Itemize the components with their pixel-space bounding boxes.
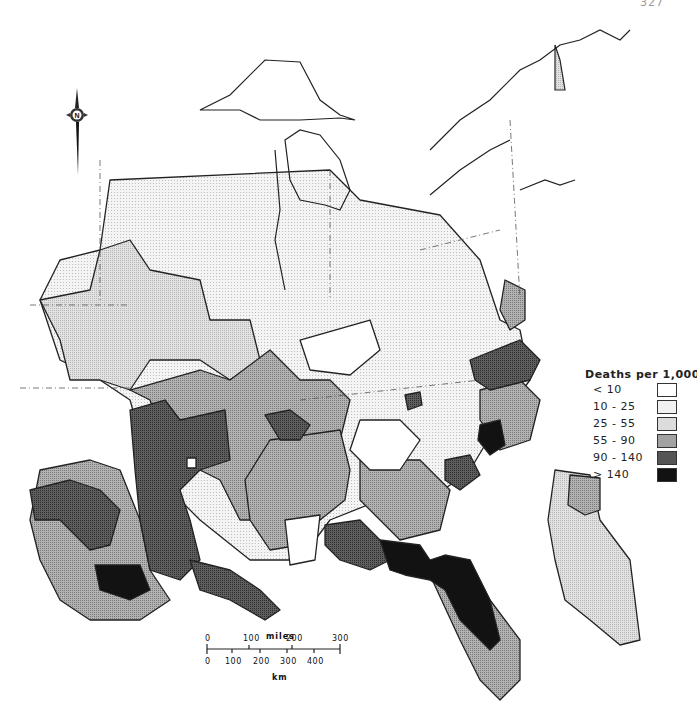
north-arrow-icon: N <box>66 88 88 175</box>
miles-tick: 0 <box>205 634 211 643</box>
km-tick: 400 <box>307 657 324 666</box>
km-tick: 200 <box>253 657 270 666</box>
miles-tick: 200 <box>286 634 303 643</box>
km-tick: 100 <box>225 657 242 666</box>
legend-item: < 10 <box>585 381 695 398</box>
legend-item: 55 - 90 <box>585 432 695 449</box>
km-tick: 0 <box>205 657 211 666</box>
legend-swatch-55-90 <box>657 434 677 448</box>
scale-legend: miles 0 100 200 300 0 100 200 300 400 km <box>200 632 350 692</box>
legend-swatch-gt140 <box>657 468 677 482</box>
legend-label: 25 - 55 <box>585 417 657 430</box>
legend-swatch-90-140 <box>657 451 677 465</box>
region-fills <box>30 170 640 700</box>
miles-tick: 100 <box>243 634 260 643</box>
miles-tick: 300 <box>332 634 349 643</box>
legend-item: 25 - 55 <box>585 415 695 432</box>
legend-label: 90 - 140 <box>585 451 657 464</box>
legend-item: > 140 <box>585 466 695 483</box>
legend-item: 10 - 25 <box>585 398 695 415</box>
scale-km-label: km <box>272 673 288 682</box>
legend: Deaths per 1,000 < 10 10 - 25 25 - 55 55… <box>585 368 695 483</box>
legend-title: Deaths per 1,000 <box>585 368 695 381</box>
legend-swatch-10-25 <box>657 400 677 414</box>
svg-text:N: N <box>75 112 80 119</box>
legend-label: < 10 <box>585 383 657 396</box>
km-tick: 300 <box>280 657 297 666</box>
legend-label: 10 - 25 <box>585 400 657 413</box>
legend-swatch-lt10 <box>657 383 677 397</box>
legend-label: 55 - 90 <box>585 434 657 447</box>
legend-item: 90 - 140 <box>585 449 695 466</box>
legend-label: > 140 <box>585 468 657 481</box>
choropleth-map: N <box>0 0 697 707</box>
legend-swatch-25-55 <box>657 417 677 431</box>
